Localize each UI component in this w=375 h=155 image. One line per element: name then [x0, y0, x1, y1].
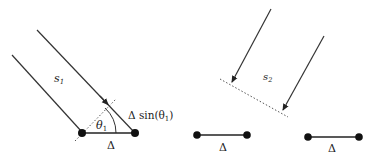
angle-label-theta1: θ1 — [96, 119, 107, 133]
baseline-label-left: Δ — [107, 139, 115, 152]
array-geometry-diagram: s1 θ1 Δ sin(θ1) Δ s2 Δ Δ — [0, 0, 375, 155]
incoming-ray-4 — [283, 36, 324, 110]
signal-label-s2: s2 — [263, 71, 272, 84]
baseline-label-a: Δ — [219, 141, 227, 154]
left-panel: s1 θ1 Δ sin(θ1) Δ — [12, 30, 173, 152]
baseline-label-b: Δ — [328, 142, 336, 155]
sensor-dot-2 — [131, 129, 139, 137]
sensor-dot-5 — [304, 133, 312, 141]
sensor-dot-1 — [78, 129, 86, 137]
wavefront-dotted-2 — [220, 79, 288, 117]
ray-2-arrow — [100, 96, 108, 105]
sensor-dot-6 — [355, 133, 363, 141]
sensor-pair-a: Δ — [193, 131, 251, 154]
signal-label-s1: s1 — [54, 72, 64, 86]
incoming-ray-2 — [37, 30, 135, 133]
path-difference-label: Δ sin(θ1) — [128, 109, 173, 123]
sensor-dot-3 — [193, 131, 201, 139]
sensor-pair-b: Δ — [304, 133, 363, 155]
right-panel: s2 Δ Δ — [193, 9, 363, 155]
sensor-dot-4 — [243, 131, 251, 139]
